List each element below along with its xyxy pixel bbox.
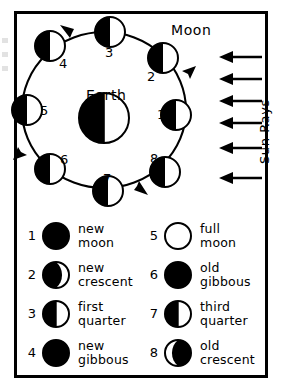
legend-label-line2: gibbous [78,353,129,367]
legend-label-line2: moon [78,236,114,250]
legend-item-6: 6 old gibbous [142,255,264,294]
legend-item-2: 2 new crescent [20,255,142,294]
legend-label-line2: moon [200,236,236,250]
legend-number-5: 5 [142,228,158,243]
legend-label-line2: gibbous [200,275,251,289]
orbit-number-3: 3 [105,46,113,59]
legend-label-line2: quarter [200,314,248,328]
legend-item-1: 1 new moon [20,216,142,255]
page-bleed-mark [2,66,8,71]
legend-label-1: new moon [78,222,114,250]
legend-label-3: first quarter [78,300,126,328]
sun-rays-label: Sun Rays [258,99,271,164]
legend-label-line1: new [78,261,133,275]
legend-item-5: 5 full moon [142,216,264,255]
moon-label: Moon [171,23,211,37]
moon-phases-figure: Earth Moon 1 2 3 4 5 6 7 8 Sun Rays 1 ne… [0,0,282,390]
legend-number-7: 7 [142,306,158,321]
legend-label-7: third quarter [200,300,248,328]
legend-label-4: new gibbous [78,339,129,367]
orbit-number-4: 4 [59,57,67,70]
legend-number-4: 4 [20,345,36,360]
legend-label-line1: full [200,222,236,236]
legend-label-line1: new [78,222,114,236]
moon-full-icon [163,221,193,251]
legend-label-2: new crescent [78,261,133,289]
moon-new-icon [41,221,71,251]
moon-waxing-gibbous-icon [41,338,71,368]
legend-label-line1: old [200,339,255,353]
legend-label-8: old crescent [200,339,255,367]
page-bleed-mark [2,52,8,57]
legend-label-line1: new [78,339,129,353]
phase-legend-right-column: 5 full moon 6 [142,216,264,374]
earth-label: Earth [86,88,127,102]
page-bleed-mark [2,38,8,43]
legend-label-line2: crescent [200,353,255,367]
orbit-number-5: 5 [40,104,48,117]
phase-legend: 1 new moon 2 [20,216,264,374]
orbit-number-7: 7 [103,172,111,185]
legend-label-line1: old [200,261,251,275]
moon-waxing-crescent-icon [41,260,71,290]
orbit-number-1: 1 [157,108,165,121]
legend-label-5: full moon [200,222,236,250]
legend-number-6: 6 [142,267,158,282]
moon-waning-gibbous-icon [163,260,193,290]
moon-waning-crescent-icon [163,338,193,368]
phase-legend-left-column: 1 new moon 2 [20,216,142,374]
moon-first-quarter-icon [41,299,71,329]
legend-number-2: 2 [20,267,36,282]
legend-label-line2: crescent [78,275,133,289]
legend-label-line1: first [78,300,126,314]
legend-number-1: 1 [20,228,36,243]
legend-item-8: 8 old crescent [142,333,264,372]
legend-label-line2: quarter [78,314,126,328]
orbit-number-8: 8 [150,152,158,165]
moon-third-quarter-icon [163,299,193,329]
legend-item-4: 4 new gibbous [20,333,142,372]
legend-number-8: 8 [142,345,158,360]
legend-item-7: 7 third quarter [142,294,264,333]
orbit-number-6: 6 [60,153,68,166]
legend-label-6: old gibbous [200,261,251,289]
legend-label-line1: third [200,300,248,314]
orbit-number-2: 2 [147,70,155,83]
legend-item-3: 3 first quarter [20,294,142,333]
legend-number-3: 3 [20,306,36,321]
